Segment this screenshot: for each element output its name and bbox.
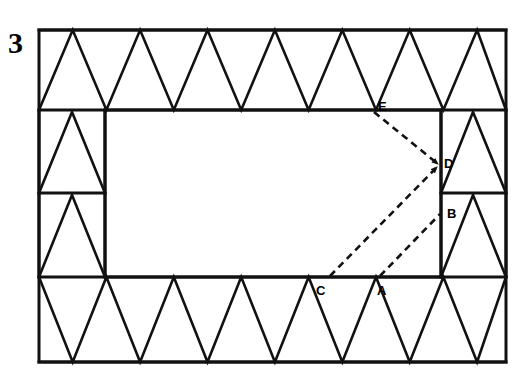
dashed-segment-e-to-d <box>374 112 438 164</box>
point-label-e: E <box>378 99 387 114</box>
geometry-figure: 3 <box>0 0 531 386</box>
bottom-band-triangles <box>39 277 506 362</box>
point-label-d: D <box>444 156 453 171</box>
point-label-b: B <box>447 206 456 221</box>
inner-rectangle <box>105 110 441 277</box>
figure-number-label: 3 <box>8 26 23 59</box>
top-band-triangles <box>39 30 506 110</box>
outer-rectangle <box>39 30 506 362</box>
right-column-triangles <box>441 110 506 277</box>
point-labels: A B C D E <box>316 99 456 298</box>
dashed-construction-lines <box>330 112 440 276</box>
point-label-c: C <box>316 283 326 298</box>
dashed-segment-c-to-d <box>330 167 437 276</box>
left-column-triangles <box>39 110 105 277</box>
figure-canvas: 3 <box>0 0 531 386</box>
dashed-segment-a-to-b <box>380 214 440 276</box>
point-label-a: A <box>377 283 387 298</box>
